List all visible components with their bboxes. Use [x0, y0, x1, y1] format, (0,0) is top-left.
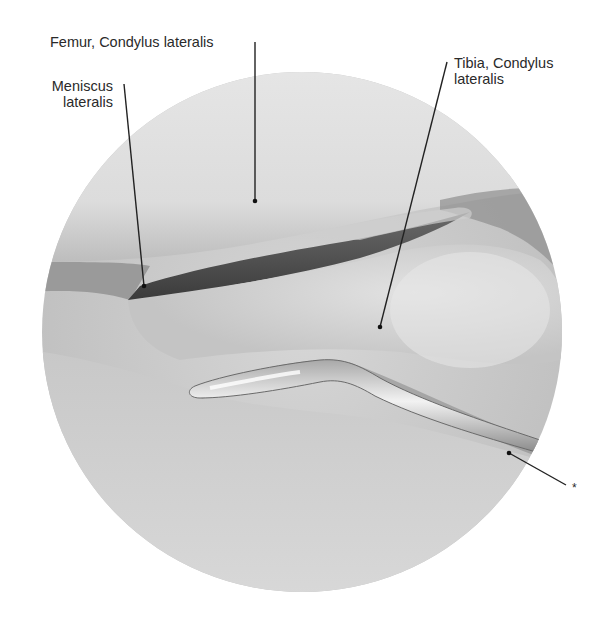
label-femur: Femur, Condylus lateralis — [50, 34, 214, 50]
label-tibia: Tibia, Condylus lateralis — [454, 55, 553, 87]
label-probe-asterisk: * — [572, 480, 577, 496]
label-meniscus: Meniscus lateralis — [40, 78, 113, 110]
label-probe-text: * — [572, 480, 577, 496]
label-tibia-line2: lateralis — [454, 71, 553, 87]
label-meniscus-line1: Meniscus — [40, 78, 113, 94]
label-meniscus-line2: lateralis — [40, 94, 113, 110]
label-tibia-line1: Tibia, Condylus — [454, 55, 553, 71]
arthroscopic-image — [30, 60, 580, 600]
label-femur-text: Femur, Condylus lateralis — [50, 34, 214, 50]
